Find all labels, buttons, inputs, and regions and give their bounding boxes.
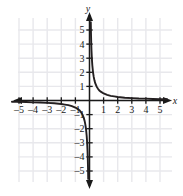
y-tick-label: –4 (74, 151, 85, 162)
x-axis-label: x (172, 95, 178, 106)
curve-branch (91, 22, 167, 99)
axes (13, 12, 172, 189)
x-tick-label: –5 (13, 104, 24, 115)
y-tick-label: –5 (74, 165, 85, 176)
x-tick-label: 1 (101, 104, 106, 115)
x-tick-label: 4 (143, 104, 148, 115)
y-tick-label: 2 (80, 67, 85, 78)
y-axis-label: y (85, 3, 91, 14)
y-tick-label: –2 (74, 123, 85, 134)
graph-figure: –5–4–3–2–11234554321–1–2–3–4–5 x y (0, 0, 183, 196)
y-tick-label: 1 (80, 81, 85, 92)
y-tick-label: 5 (80, 24, 85, 35)
x-tick-label: –2 (55, 104, 66, 115)
y-tick-label: –3 (74, 137, 85, 148)
y-tick-label: 3 (80, 53, 85, 64)
x-tick-label: 3 (129, 104, 134, 115)
x-tick-label: 5 (158, 104, 163, 115)
x-tick-label: –3 (41, 104, 52, 115)
x-tick-label: –4 (27, 104, 38, 115)
coordinate-plane: –5–4–3–2–11234554321–1–2–3–4–5 x y (0, 0, 183, 196)
x-tick-label: 2 (115, 104, 120, 115)
y-tick-label: 4 (80, 39, 85, 50)
